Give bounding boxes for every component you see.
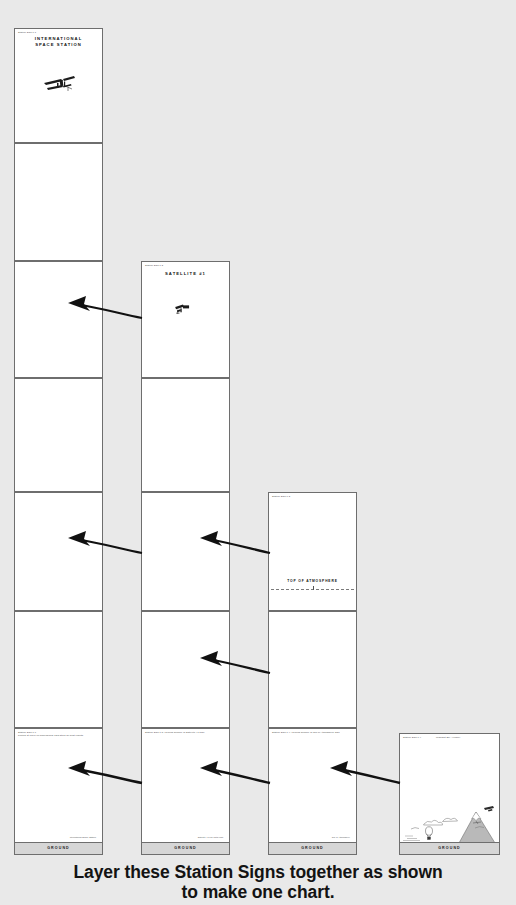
card-midnight-sky[interactable]: Station Sign 1.4 Midnight Sky Allegory — [399, 733, 500, 855]
ground-label: GROUND — [15, 843, 102, 854]
arrow-row4-col2-to-col1 — [64, 527, 144, 557]
arrow-row5-col3-to-col2 — [196, 647, 272, 677]
ground-label: GROUND — [400, 843, 499, 854]
satellite-icon — [170, 300, 196, 322]
card-sat-ground[interactable]: Station Sign 1.5 | ground surface of Sat… — [141, 728, 230, 855]
ground-label: GROUND — [269, 843, 356, 854]
card-iss-6[interactable] — [14, 611, 103, 728]
print-note: Printed at 100% on dimensional card stoc… — [18, 734, 84, 737]
corner-label: Station Sign 1.5 | ground surface of Sat… — [145, 731, 204, 734]
card-iss-2[interactable] — [14, 143, 103, 261]
caption-line-2: to make one chart. — [0, 882, 516, 903]
ground-strip: GROUND — [15, 842, 102, 854]
top-of-atmosphere-tick — [313, 586, 314, 590]
card-title: INTERNATIONAL SPACE STATION — [15, 36, 102, 48]
iss-icon — [35, 71, 85, 101]
side-note: International Space Station — [70, 836, 96, 840]
ground-label: GROUND — [142, 843, 229, 854]
card-title: Midnight Sky Allegory — [436, 736, 460, 739]
card-sat-2[interactable] — [141, 378, 230, 492]
card-sat-top[interactable]: Station Sign 1.2 SATELLITE #1 — [141, 261, 230, 378]
arrow-row6-col4-to-col3 — [326, 757, 402, 787]
poster-canvas: Station Sign 1.1 INTERNATIONAL SPACE STA… — [0, 0, 516, 905]
mountain-scene — [400, 793, 500, 843]
top-of-atmosphere-label: TOP OF ATMOSPHERE — [269, 579, 356, 583]
arrow-row6-col2-to-col1 — [64, 757, 144, 787]
card-toa-ground[interactable]: Station Sign 1.4 | ground surface of Top… — [268, 728, 357, 855]
card-toa-2[interactable] — [268, 611, 357, 728]
corner-label: Station Sign 1.4 | ground surface of Top… — [272, 731, 340, 734]
card-toa-top[interactable]: Station Sign 1.3 TOP OF ATMOSPHERE — [268, 492, 357, 611]
side-note: Satellite #1 low earth orbit — [198, 836, 223, 840]
ground-strip: GROUND — [400, 842, 499, 854]
corner-label: Station Sign 1.3 — [272, 495, 290, 498]
corner-label: Station Sign 1.1 — [18, 31, 36, 34]
side-note: Top of Atmosphere — [332, 836, 350, 840]
arrow-row2-col2-to-col1 — [64, 292, 144, 322]
card-title: SATELLITE #1 — [142, 271, 229, 277]
ground-strip: GROUND — [269, 842, 356, 854]
card-iss-ground[interactable]: Station Sign 1.6 Printed at 100% on dime… — [14, 728, 103, 855]
card-iss-4[interactable] — [14, 378, 103, 492]
ground-strip: GROUND — [142, 842, 229, 854]
card-iss-top[interactable]: Station Sign 1.1 INTERNATIONAL SPACE STA… — [14, 28, 103, 143]
poster-caption: Layer these Station Signs together as sh… — [0, 862, 516, 903]
corner-label: Station Sign 1.2 — [145, 264, 163, 267]
arrow-row6-col3-to-col2 — [196, 757, 272, 787]
corner-label: Station Sign 1.4 — [403, 736, 421, 739]
caption-line-1: Layer these Station Signs together as sh… — [73, 862, 442, 882]
arrow-row4-col3-to-col2 — [196, 527, 272, 557]
